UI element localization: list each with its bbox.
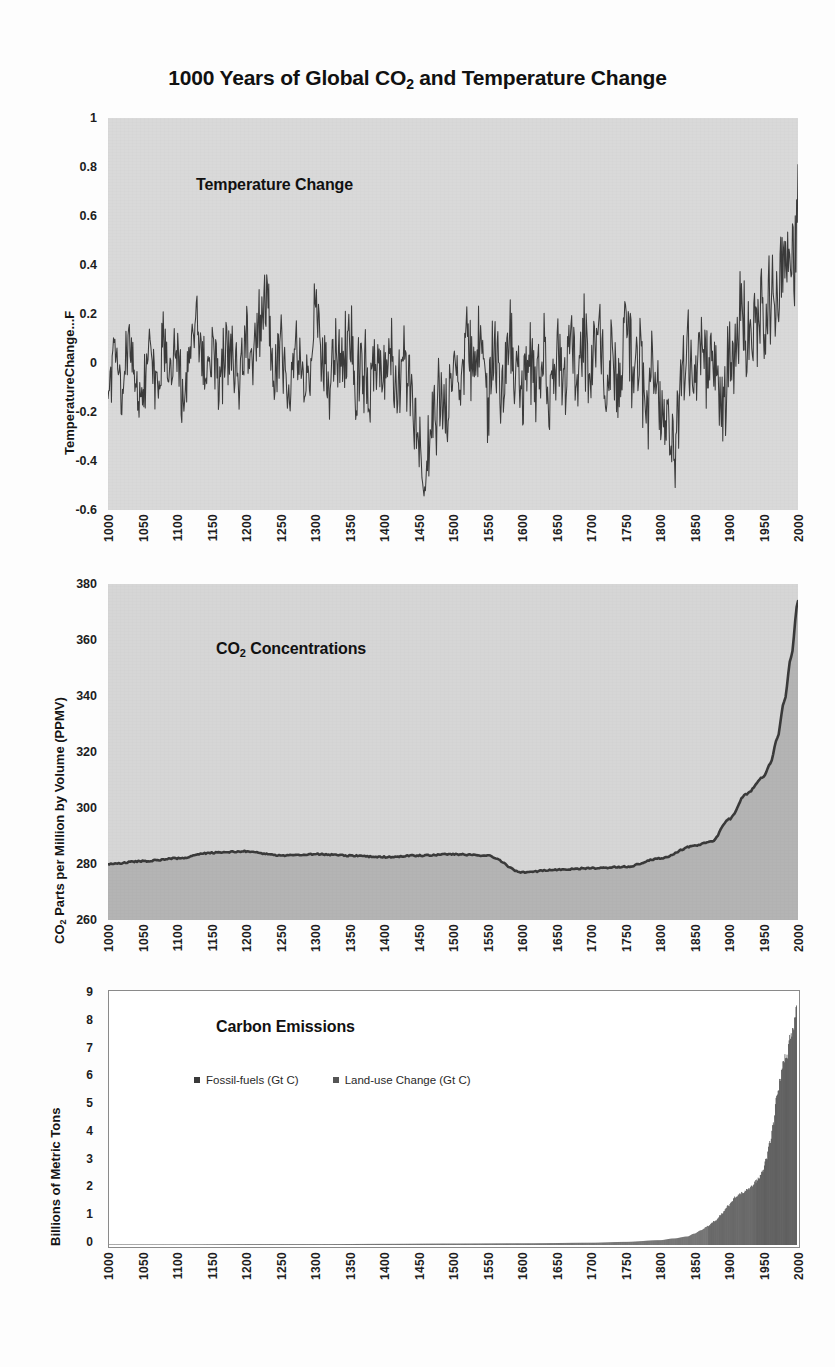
x-axis-tick-label: 2000 (792, 1252, 806, 1280)
x-axis-tick-label: 1300 (309, 924, 323, 952)
x-axis-tick-label: 2000 (792, 514, 806, 542)
panel-temperature: 10.80.60.40.20-0.2-0.4-0.6 TemperatureCh… (0, 110, 835, 520)
x-axis-tick-label: 1800 (654, 514, 668, 542)
y-axis-tick-label: 280 (76, 857, 97, 871)
legend-item-fossil-fuels: Fossil-fuels (Gt C) (194, 1074, 299, 1086)
x-axis-tick-label: 1550 (482, 924, 496, 952)
x-axis-tick-label: 1950 (758, 514, 772, 542)
x-axis-tick-label: 1150 (206, 924, 220, 951)
y-axis-tick-label: 0.8 (80, 160, 97, 174)
y-axis-tick-label: 1 (90, 111, 97, 125)
y-axis-tick-label: 380 (76, 577, 97, 591)
y-axis-tick-label: 320 (76, 745, 97, 759)
x-axis-tick-label: 1450 (413, 514, 427, 542)
x-axis-tick-label: 1300 (309, 1252, 323, 1280)
x-axis-tick-label: 1150 (206, 1252, 220, 1279)
x-axis-tick-label: 1750 (620, 924, 634, 952)
x-axis-tick-label: 1750 (620, 1252, 634, 1280)
x-axis-tick-label: 1100 (171, 1252, 185, 1279)
x-axis-tick-label: 1600 (516, 1252, 530, 1280)
x-axis-tick-label: 1650 (551, 514, 565, 542)
y-axis-tick-label: 3 (86, 1152, 93, 1166)
y-axis-tick-label: -0.4 (75, 454, 97, 468)
x-axis-tick-label: 1050 (137, 1252, 151, 1280)
x-axis-tick-label: 1400 (378, 924, 392, 952)
x-axis-tick-label: 1600 (516, 514, 530, 542)
x-axis-tick-label: 1800 (654, 924, 668, 952)
y-axis-tick-label: 340 (76, 689, 97, 703)
x-axis-tick-label: 1950 (758, 924, 772, 952)
title-prefix: 1000 Years of Global CO (168, 66, 406, 89)
x-axis-tick-label: 1200 (240, 514, 254, 542)
x-axis-tick-label: 1250 (275, 924, 289, 952)
x-axis-tick-label: 1800 (654, 1252, 668, 1280)
co2-y-axis-title: CO2 Parts per Million by Volume (PPMV) (52, 697, 68, 944)
x-axis-tick-label: 1650 (551, 1252, 565, 1280)
legend-swatch-land-use-change (333, 1077, 339, 1083)
y-axis-tick-label: 0 (86, 1235, 93, 1249)
x-axis-tick-label: 1850 (689, 924, 703, 952)
x-axis-tick-label: 1550 (482, 514, 496, 542)
x-axis-tick-label: 1350 (344, 1252, 358, 1280)
chart-page: 1000 Years of Global CO2 and Temperature… (0, 0, 835, 1367)
x-axis-tick-label: 2000 (792, 924, 806, 952)
x-axis-tick-label: 1950 (758, 1252, 772, 1280)
emissions-series-bars (109, 991, 797, 1245)
x-axis-tick-label: 1150 (206, 514, 220, 541)
emissions-legend: Fossil-fuels (Gt C) Land-use Change (Gt … (194, 1074, 471, 1086)
panel-emissions: 9876543210 Billions of Metric Tons Carbo… (0, 988, 835, 1367)
x-axis-tick-label: 1700 (585, 514, 599, 542)
x-axis-tick-label: 1900 (723, 924, 737, 952)
y-axis-tick-label: 7 (86, 1041, 93, 1055)
y-axis-tick-label: 9 (86, 985, 93, 999)
x-axis-tick-label: 1100 (171, 924, 185, 951)
x-axis-tick-label: 1750 (620, 514, 634, 542)
legend-label-fossil-fuels: Fossil-fuels (Gt C) (206, 1074, 299, 1086)
y-axis-tick-label: 0.6 (80, 209, 97, 223)
x-axis-tick-label: 1850 (689, 514, 703, 542)
y-axis-tick-label: 300 (76, 801, 97, 815)
y-axis-tick-label: 5 (86, 1096, 93, 1110)
x-axis-tick-label: 1350 (344, 924, 358, 952)
x-axis-tick-label: 1500 (447, 1252, 461, 1280)
x-axis-tick-label: 1000 (102, 1252, 116, 1280)
y-axis-tick-label: 1 (86, 1207, 93, 1221)
x-axis-tick-label: 1100 (171, 514, 185, 541)
x-axis-tick-label: 1900 (723, 514, 737, 542)
page-title: 1000 Years of Global CO2 and Temperature… (0, 66, 835, 92)
y-axis-tick-label: 0.2 (80, 307, 97, 321)
x-axis-tick-label: 1250 (275, 1252, 289, 1280)
legend-swatch-fossil-fuels (194, 1077, 200, 1083)
x-axis-tick-label: 1700 (585, 924, 599, 952)
co2-series-area (108, 584, 798, 920)
x-axis-tick-label: 1550 (482, 1252, 496, 1280)
y-axis-tick-label: -0.2 (75, 405, 97, 419)
x-axis-tick-label: 1500 (447, 924, 461, 952)
y-axis-tick-label: 2 (86, 1179, 93, 1193)
x-axis-tick-label: 1000 (102, 924, 116, 952)
x-axis-tick-label: 1250 (275, 514, 289, 542)
x-axis-tick-label: 1200 (240, 1252, 254, 1280)
x-axis-tick-label: 1200 (240, 924, 254, 952)
legend-label-land-use-change: Land-use Change (Gt C) (345, 1074, 471, 1086)
temperature-x-axis-ticks: 1000105011001150120012501300135014001450… (0, 514, 835, 574)
x-axis-tick-label: 1050 (137, 514, 151, 542)
x-axis-tick-label: 1700 (585, 1252, 599, 1280)
co2-plot-area (108, 584, 798, 920)
y-axis-tick-label: 8 (86, 1013, 93, 1027)
temperature-annotation: Temperature Change (196, 176, 353, 194)
y-axis-tick-label: 4 (86, 1124, 93, 1138)
x-axis-tick-label: 1400 (378, 514, 392, 542)
title-subscript: 2 (406, 76, 414, 92)
x-axis-tick-label: 1600 (516, 924, 530, 952)
x-axis-tick-label: 1300 (309, 514, 323, 542)
x-axis-tick-label: 1400 (378, 1252, 392, 1280)
emissions-plot-area (108, 990, 800, 1248)
x-axis-tick-label: 1850 (689, 1252, 703, 1280)
x-axis-tick-label: 1350 (344, 514, 358, 542)
panel-co2: 380360340320300280260 CO2 Parts per Mill… (0, 578, 835, 978)
co2-x-axis-ticks: 1000105011001150120012501300135014001450… (0, 924, 835, 984)
legend-item-land-use-change: Land-use Change (Gt C) (333, 1074, 471, 1086)
x-axis-tick-label: 1050 (137, 924, 151, 952)
x-axis-tick-label: 1000 (102, 514, 116, 542)
